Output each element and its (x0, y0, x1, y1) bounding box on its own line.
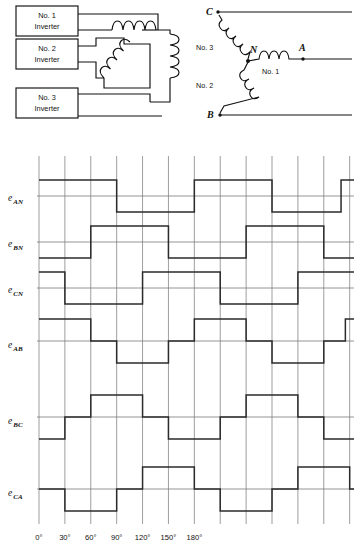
coil-diagonal (100, 39, 130, 78)
inverter-1-line1: No. 1 (38, 11, 56, 20)
node-dot-A (301, 57, 304, 60)
node-label-B: B (206, 109, 214, 120)
node-dot-C (216, 10, 219, 13)
x-tick-label: 60° (85, 533, 96, 542)
x-axis-tick-labels: 0°30°60°90°120°150°180° (35, 533, 202, 542)
winding-label-no2: No. 2 (196, 81, 213, 90)
waveform-label-cn: eCN (8, 285, 24, 298)
winding-label-no1: No. 1 (262, 67, 279, 76)
inverter-circuit: No. 1 Inverter No. 2 Inverter No. 3 Inve… (16, 6, 179, 118)
node-label-A: A (298, 42, 306, 53)
inverter-2-line1: No. 2 (38, 44, 56, 53)
x-tick-label: 120° (135, 533, 151, 542)
inverter-3-line1: No. 3 (38, 93, 56, 102)
inverter-2-line2: Inverter (34, 55, 60, 64)
inverter-1-line2: Inverter (34, 22, 60, 31)
x-tick-label: 0° (35, 533, 42, 542)
wye-circuit: C No. 3 N A No. 1 No. 2 B (196, 6, 352, 120)
x-tick-label: 90° (111, 533, 122, 542)
inverter-box-1[interactable]: No. 1 Inverter (16, 6, 78, 36)
waveform-label-an: eAN (8, 193, 24, 206)
wire-top-to-vertical-coil (158, 30, 170, 34)
waveform-traces (39, 180, 354, 511)
node-dot-B (218, 113, 221, 116)
waveform-label-bc: eBC (8, 416, 23, 429)
inverter-3-line2: Inverter (34, 104, 60, 113)
coil-horizontal (112, 21, 156, 30)
winding-label-no3: No. 3 (196, 43, 213, 52)
coil-no2 (220, 62, 259, 113)
waveform-label-ab: eAB (8, 340, 23, 353)
x-tick-label: 180° (186, 533, 202, 542)
inverter-box-2[interactable]: No. 2 Inverter (16, 39, 78, 69)
coil-vertical (170, 34, 179, 78)
node-label-N: N (249, 44, 258, 55)
node-label-C: C (206, 6, 213, 17)
x-tick-label: 30° (59, 533, 70, 542)
waveform-row-labels: eANeBNeCNeABeBCeCA (8, 193, 24, 501)
figure-root: No. 1 Inverter No. 2 Inverter No. 3 Inve… (0, 0, 358, 548)
coil-no3 (219, 15, 250, 59)
grid-lines (37, 156, 354, 524)
wire-inner-loop (104, 41, 150, 88)
inverter-box-3[interactable]: No. 3 Inverter (16, 88, 78, 118)
waveform-plot: eANeBNeCNeABeBCeCA 0°30°60°90°120°150°18… (8, 156, 354, 542)
waveform-label-bn: eBN (8, 239, 24, 252)
wire-inverter2-top (78, 38, 118, 46)
wire-inverter3-top (78, 94, 150, 102)
waveform-label-ca: eCA (8, 488, 23, 501)
wire-vertical-coil-bottom (150, 78, 170, 102)
x-tick-label: 150° (161, 533, 177, 542)
